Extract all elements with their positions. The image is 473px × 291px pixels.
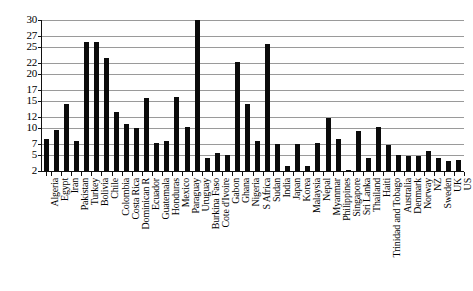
x-tick-mark: [293, 172, 294, 176]
x-tick-mark: [202, 172, 203, 176]
x-tick-mark: [242, 172, 243, 176]
x-tick-mark: [273, 172, 274, 176]
x-tick-mark: [212, 172, 213, 176]
x-tick-mark: [424, 172, 425, 176]
x-tick-mark: [182, 172, 183, 176]
x-tick-mark: [333, 172, 334, 176]
x-tick-mark: [222, 172, 223, 176]
x-tick-mark: [323, 172, 324, 176]
x-tick-mark: [464, 172, 465, 176]
x-tick-mark: [152, 172, 153, 176]
x-tick-mark: [263, 172, 264, 176]
x-tick-mark: [192, 172, 193, 176]
x-tick-mark: [373, 172, 374, 176]
x-tick-mark: [142, 172, 143, 176]
x-tick-mark: [81, 172, 82, 176]
x-tick-mark: [122, 172, 123, 176]
x-tick-mark: [162, 172, 163, 176]
x-tick-label: Trinidad and Tobago: [392, 178, 402, 257]
x-tick-mark: [253, 172, 254, 176]
x-tick-mark: [303, 172, 304, 176]
x-tick-mark: [132, 172, 133, 176]
x-tick-mark: [172, 172, 173, 176]
x-tick-label: US: [463, 178, 473, 190]
x-tick-mark: [454, 172, 455, 176]
x-tick-mark: [434, 172, 435, 176]
x-tick-mark: [363, 172, 364, 176]
x-tick-mark: [353, 172, 354, 176]
x-tick-mark: [71, 172, 72, 176]
x-tick-mark: [112, 172, 113, 176]
x-tick-label: Nigeria: [251, 178, 261, 207]
x-tick-mark: [383, 172, 384, 176]
x-tick-mark: [91, 172, 92, 176]
x-tick-mark: [283, 172, 284, 176]
x-tick-mark: [232, 172, 233, 176]
x-tick-mark: [46, 172, 47, 176]
x-tick-mark: [101, 172, 102, 176]
x-tick-mark: [51, 172, 52, 176]
x-tick-label: Chile: [110, 178, 120, 199]
x-tick-mark: [343, 172, 344, 176]
x-tick-mark: [61, 172, 62, 176]
x-tick-mark: [394, 172, 395, 176]
x-tick-mark: [444, 172, 445, 176]
x-tick-mark: [313, 172, 314, 176]
x-tick-mark: [414, 172, 415, 176]
x-tick-mark: [404, 172, 405, 176]
